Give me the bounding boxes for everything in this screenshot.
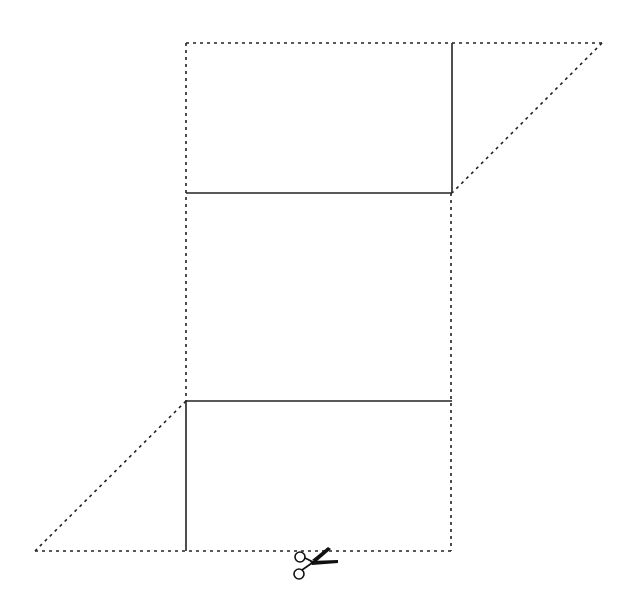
cut-lines xyxy=(35,43,602,551)
net-diagram xyxy=(0,0,640,608)
top-right-diagonal-line xyxy=(452,43,602,193)
fold-lines xyxy=(186,43,452,551)
bottom-left-diagonal-line xyxy=(35,401,186,551)
